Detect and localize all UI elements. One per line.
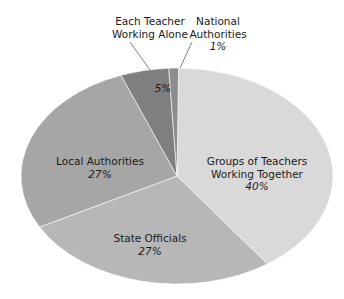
label-groups-of-teachers: Groups of Teachers Working Together 40% xyxy=(192,155,322,193)
label-national: National Authorities 1% xyxy=(178,15,258,53)
pct-each-teacher: 5% xyxy=(148,82,178,95)
label-state-officials: State Officials 27% xyxy=(100,232,200,257)
leader-line-each-teacher xyxy=(130,42,150,70)
label-local-authorities: Local Authorities 27% xyxy=(40,155,160,180)
